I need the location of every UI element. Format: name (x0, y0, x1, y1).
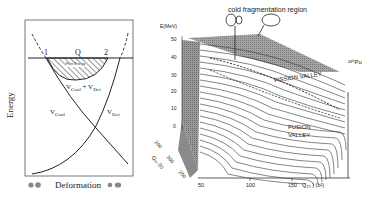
energy-curves-plot (0, 0, 140, 202)
x-tick: 100 (246, 183, 255, 189)
x-axis-label: Q₂₀ ) (b²) (302, 183, 324, 189)
pes-3d-plot (140, 0, 384, 202)
fragment-shape-icon (115, 182, 121, 187)
x-axis-label: Deformation (55, 181, 101, 190)
potential-energy-surface-diagram: cold fragmentation region E(MeV) 50 40 3… (140, 0, 384, 202)
coulomb-label: VCoul (50, 109, 65, 117)
point-2-label: 2 (104, 49, 108, 57)
z-tick: 10 (171, 106, 177, 111)
fragment-shape-icon (226, 14, 236, 26)
z-tick: 0 (173, 124, 176, 129)
z-axis-label: E(MeV) (160, 24, 177, 29)
z-tick: 40 (171, 55, 177, 60)
z-tick: 30 (171, 73, 177, 78)
q-label: Q (75, 49, 81, 57)
sum-curve-label: VCoul + VDef (66, 84, 101, 92)
schematic-energy-diagram: Energy Deformation 1 2 Q Free Energy VCo… (0, 0, 140, 202)
x-tick: 50 (198, 183, 204, 189)
point-1-label: 1 (44, 49, 48, 57)
plot-frame (25, 20, 133, 176)
fragment-shape-icon (236, 16, 242, 24)
nucleus-label: ²³⁶Pu (348, 59, 362, 65)
sphere-shape-icon (28, 182, 33, 187)
z-tick: 20 (171, 89, 177, 94)
y-axis-label: Energy (6, 92, 15, 118)
fragment-shape-icon (262, 14, 280, 26)
pointer-line (258, 25, 264, 36)
fusion-valley-label: FUSION VALLEY (288, 124, 328, 140)
x-tick: 150 (288, 183, 297, 189)
cold-fragmentation-label: cold fragmentation region (228, 6, 307, 13)
deformation-dashed-extension (120, 33, 128, 58)
deformation-potential-label: VDef (107, 109, 120, 117)
sphere-shape-icon (35, 182, 41, 188)
fragment-shape-icon (108, 183, 113, 188)
z-tick: 50 (171, 37, 177, 42)
free-energy-label: Free Energy (66, 63, 85, 67)
top-plateau (188, 34, 340, 72)
